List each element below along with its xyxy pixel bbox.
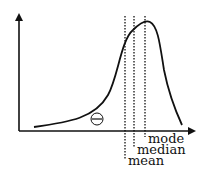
distribution-curve: [34, 21, 182, 127]
skewed-distribution-diagram: mode median mean: [0, 0, 208, 176]
y-axis-arrow-icon: [15, 13, 23, 21]
mean-label: mean: [128, 153, 165, 168]
x-axis-arrow-icon: [188, 127, 196, 135]
negative-skew-icon: [91, 113, 103, 125]
